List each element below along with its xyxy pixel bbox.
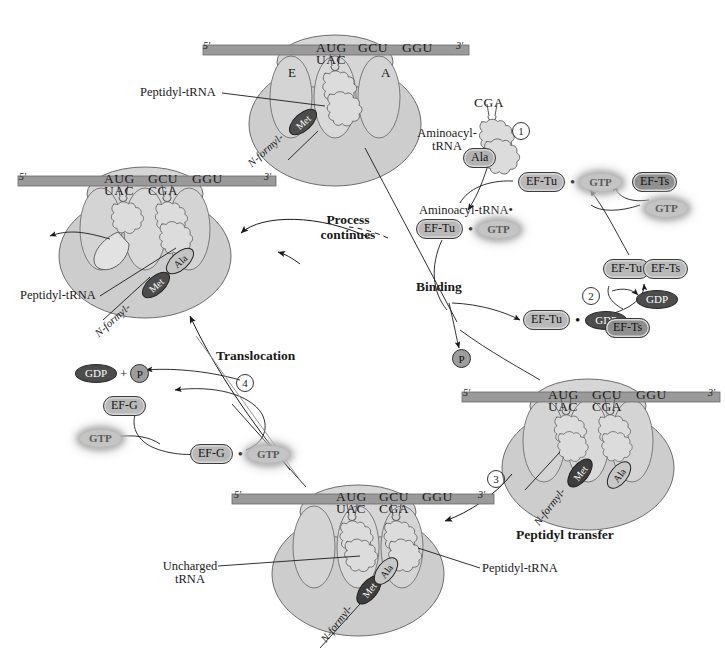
mrna-5prime-top: 5′ bbox=[203, 41, 210, 52]
node-aminoacyl-trna-ef-tu-gtp: EF-Tu • GTP bbox=[416, 219, 519, 239]
node-ef-g: EF-G bbox=[103, 396, 146, 416]
gdp-token-2: GDP bbox=[636, 290, 678, 309]
diagram-canvas: 5′ 3′ AUG GCU GGU UAC E A Peptidyl-tRNA … bbox=[0, 0, 725, 663]
ef-g-products-gdp-p: GDP + P bbox=[75, 364, 149, 383]
gtp-token-3: GTP bbox=[646, 200, 687, 217]
gtp-token-ef-g-2: GTP bbox=[248, 446, 289, 463]
ef-ts-token-bottom: EF-Ts bbox=[605, 318, 650, 338]
ef-ts-token-top: EF-Ts bbox=[632, 172, 677, 192]
ef-g-token-2: EF-G bbox=[190, 444, 233, 464]
step-number-2: 2 bbox=[582, 287, 600, 305]
label-process-continues-line2: continues bbox=[321, 228, 376, 242]
ef-g-token-1: EF-G bbox=[103, 396, 146, 416]
step-number-1: 1 bbox=[512, 122, 530, 140]
bullet-separator-2: • bbox=[468, 222, 473, 237]
step-number-3: 3 bbox=[487, 470, 505, 488]
free-ef-ts-top: EF-Ts bbox=[632, 172, 677, 192]
bullet-separator-4: • bbox=[238, 447, 243, 462]
site-label-e-top: E bbox=[288, 66, 296, 80]
callout-peptidyl-trna-left: Peptidyl-tRNA bbox=[20, 289, 96, 302]
gtp-token-2: GTP bbox=[478, 221, 519, 238]
node-ef-g-gtp: EF-G • GTP bbox=[190, 444, 289, 464]
released-phosphate-binding: P bbox=[452, 349, 471, 368]
callout-peptidyl-trna-top: Peptidyl-tRNA bbox=[140, 86, 216, 99]
label-process-continues-line1: Process bbox=[326, 213, 369, 227]
anticodon-bottom-2: CGA bbox=[379, 502, 409, 516]
label-peptidyl-transfer: Peptidyl transfer bbox=[516, 528, 614, 542]
gdp-token-ef-g: GDP bbox=[75, 364, 117, 383]
label-translocation: Translocation bbox=[216, 349, 295, 363]
mrna-5prime-bottom: 5′ bbox=[234, 490, 241, 501]
aminoacyl-ala-label: Ala bbox=[463, 148, 496, 168]
plus-sign: + bbox=[120, 366, 127, 382]
aminoacyl-anticodon: CGA bbox=[474, 96, 504, 110]
anticodon-left-2: CGA bbox=[148, 184, 178, 198]
bullet-separator-1: • bbox=[570, 175, 575, 190]
free-gtp-ef-g-cycle: GTP bbox=[80, 430, 121, 447]
ef-tu-token-2: EF-Tu bbox=[416, 219, 463, 239]
aminoacyl-trna-label-line2: tRNA bbox=[432, 140, 462, 153]
free-ef-ts-bottom: EF-Ts bbox=[605, 318, 650, 338]
phosphate-token-ef-g: P bbox=[130, 364, 149, 383]
label-binding: Binding bbox=[416, 280, 462, 294]
gtp-token-ef-g: GTP bbox=[80, 430, 121, 447]
aminoacyl-trna-complex-label: Aminoacyl-tRNA• bbox=[419, 204, 513, 217]
aminoacyl-ala-bead: Ala bbox=[463, 148, 496, 168]
anticodon-bottom-1: UAC bbox=[336, 502, 366, 516]
codon-left-3: GGU bbox=[192, 172, 223, 186]
anticodon-top-1: UAC bbox=[316, 53, 346, 67]
free-gtp-ef-tu-cycle: GTP bbox=[646, 200, 687, 217]
gtp-token-1: GTP bbox=[580, 174, 621, 191]
bullet-separator-3: • bbox=[575, 313, 580, 328]
node-ef-tu-gtp: EF-Tu • GTP bbox=[518, 172, 621, 192]
anticodon-left-1: UAC bbox=[104, 184, 134, 198]
ef-tu-token-3: EF-Tu bbox=[523, 310, 570, 330]
ef-tu-token: EF-Tu bbox=[518, 172, 565, 192]
released-gdp-ef-tu-cycle: GDP bbox=[636, 290, 678, 309]
mrna-5prime-right: 5′ bbox=[463, 388, 470, 399]
callout-uncharged-trna-line2: tRNA bbox=[175, 573, 205, 586]
node-ef-tu-ef-ts: EF-Tu EF-Ts bbox=[603, 259, 688, 279]
ef-ts-token-1: EF-Ts bbox=[643, 259, 688, 279]
mrna-5prime-left: 5′ bbox=[19, 172, 26, 183]
step-number-4: 4 bbox=[236, 374, 254, 392]
